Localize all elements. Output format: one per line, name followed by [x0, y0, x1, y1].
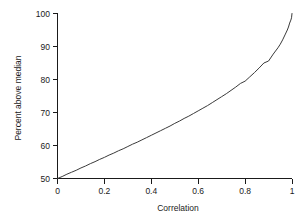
y-tick-label: 70	[41, 108, 51, 118]
chart-plot-svg: 100 90 80 70 60 50 0 0.2 0.4 0.6 0.8 1 C…	[0, 0, 306, 216]
x-tick-label: 0.4	[145, 186, 157, 196]
y-tick-label: 50	[41, 174, 51, 184]
x-tick-label: 1	[290, 186, 295, 196]
y-tick-label: 90	[41, 42, 51, 52]
chart-figure: 100 90 80 70 60 50 0 0.2 0.4 0.6 0.8 1 C…	[0, 0, 306, 216]
x-tick-label: 0.6	[192, 186, 204, 196]
x-tick-label: 0.8	[239, 186, 251, 196]
x-tick-label: 0	[55, 186, 60, 196]
y-tick-label: 60	[41, 141, 51, 151]
y-tick-label: 80	[41, 75, 51, 85]
y-axis-title: Percent above median	[13, 55, 23, 140]
y-tick-label: 100	[36, 9, 50, 19]
x-axis-title: Correlation	[157, 203, 199, 213]
x-tick-label: 0.2	[98, 186, 110, 196]
